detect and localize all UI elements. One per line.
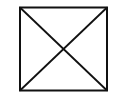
crossed-square-diagram (0, 0, 117, 95)
